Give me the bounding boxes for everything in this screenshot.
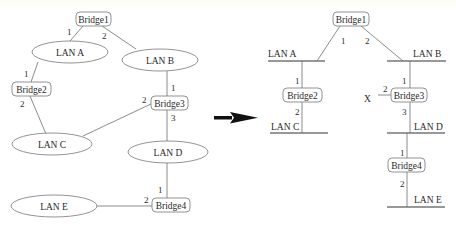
lan-b: LAN B [122,49,198,71]
link-b3-lanc [83,103,153,136]
port-label: 1 [402,76,407,86]
port-label: 3 [171,113,176,123]
bridge-1-label: Bridge1 [78,15,109,25]
link-b1-lana [317,26,340,61]
bridge-1: Bridge1 [76,12,111,26]
port-label: 1 [400,148,405,158]
bridge-4-label: Bridge4 [156,201,187,211]
lan-b-label: LAN B [413,49,441,59]
port-label: 1 [67,27,72,37]
lan-d-label: LAN D [154,148,183,158]
bridge-3-label: Bridge3 [154,99,185,109]
bridge-1: Bridge1 [333,12,369,26]
bridge-4: Bridge4 [152,198,190,212]
bridge-4: Bridge4 [388,158,425,172]
bridge-3: Bridge3 [151,96,188,110]
bridge-2-label: Bridge2 [16,85,47,95]
port-label: 1 [24,69,29,79]
link-b2-lana [31,62,38,82]
port-label: 2 [142,95,147,105]
right-tree: LAN A LAN B LAN C LAN D LAN E Bridge1 Br… [268,12,446,207]
lan-c-label: LAN C [271,122,299,132]
diagram-canvas: LAN A LAN B LAN C LAN D LAN E Bridge1 Br… [0,0,456,226]
bridge-2-label: Bridge2 [287,91,318,101]
port-label: 1 [158,185,163,195]
bridge-2: Bridge2 [12,82,51,96]
bridge-4-label: Bridge4 [391,161,422,171]
lan-a: LAN A [32,41,108,63]
bridge-2: Bridge2 [283,88,322,102]
port-label: 2 [144,195,149,205]
port-label: 2 [102,31,107,41]
link-b1-lana [70,26,83,41]
port-label: 2 [20,99,25,109]
bridge-3-label: Bridge3 [394,91,425,101]
lan-a-label: LAN A [268,49,296,59]
link-b1-lanb [102,26,136,49]
lan-b-label: LAN B [146,56,174,66]
bridge-3: Bridge3 [391,88,427,102]
port-label: 1 [171,83,176,93]
port-label: 3 [402,107,407,117]
left-graph: LAN A LAN B LAN C LAN D LAN E Bridge1 Br… [11,12,208,217]
port-label: 1 [341,36,346,46]
link-b2-lanc [30,96,46,134]
lan-e-label: LAN E [414,195,442,205]
lan-a-label: LAN A [56,48,84,58]
spanning-tree-diagram: LAN A LAN B LAN C LAN D LAN E Bridge1 Br… [0,0,456,226]
port-label: 2 [400,179,405,189]
lan-e: LAN E [11,195,97,217]
blocked-port-marker: X [364,94,371,104]
lan-d-label: LAN D [414,122,443,132]
port-label: 2 [365,36,370,46]
port-label: 2 [383,84,388,94]
transform-arrow-icon [214,112,258,124]
bridge-1-label: Bridge1 [336,15,367,25]
lan-c-label: LAN C [38,140,66,150]
lan-d: LAN D [128,141,208,163]
port-label: 1 [295,76,300,86]
port-label: 2 [295,107,300,117]
lan-e-label: LAN E [40,202,68,212]
lan-c: LAN C [12,133,92,155]
